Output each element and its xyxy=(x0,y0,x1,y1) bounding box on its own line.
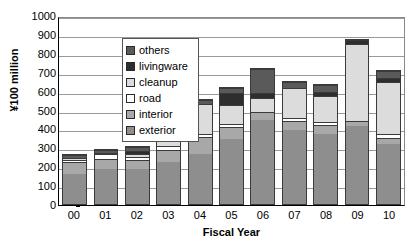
bar-segment-exterior[interactable] xyxy=(63,174,86,204)
x-axis-tick-label: 02 xyxy=(124,208,149,224)
bar-segment-interior[interactable] xyxy=(283,121,306,130)
bar-column xyxy=(376,18,401,205)
bar-segment-exterior[interactable] xyxy=(283,130,306,204)
bar-segment-cleanup[interactable] xyxy=(346,44,369,121)
legend-label: interior xyxy=(139,109,173,120)
y-axis-tick-label: 900 xyxy=(20,30,56,41)
bar-segment-exterior[interactable] xyxy=(95,169,118,204)
stacked-bar[interactable] xyxy=(313,84,338,205)
legend-item-cleanup[interactable]: cleanup xyxy=(126,74,194,90)
stacked-bar[interactable] xyxy=(125,146,150,205)
bar-segment-cleanup[interactable] xyxy=(314,96,337,122)
y-axis-tick-mark xyxy=(76,206,80,207)
bar-segment-exterior[interactable] xyxy=(314,134,337,204)
y-axis-tick-label: 600 xyxy=(20,87,56,98)
legend-label: exterior xyxy=(139,125,176,136)
legend-label: cleanup xyxy=(139,77,178,88)
bar-segment-others[interactable] xyxy=(251,69,274,94)
y-axis-tick-label: 800 xyxy=(20,49,56,60)
legend-item-road[interactable]: road xyxy=(126,90,194,106)
legend-label: road xyxy=(139,93,161,104)
bar-segment-others[interactable] xyxy=(314,85,337,93)
bar-column xyxy=(62,18,87,205)
y-axis-tick-label: 200 xyxy=(20,162,56,173)
x-axis-tick-label: 10 xyxy=(377,208,402,224)
x-axis-tick-labels: 0001020304050607080910 xyxy=(58,208,405,224)
bar-segment-interior[interactable] xyxy=(157,150,180,162)
legend-label: others xyxy=(139,45,170,56)
legend-label: livingware xyxy=(139,61,188,72)
bar-column xyxy=(282,18,307,205)
legend-item-interior[interactable]: interior xyxy=(126,106,194,122)
bar-segment-cleanup[interactable] xyxy=(283,88,306,118)
x-axis-tick-label: 03 xyxy=(156,208,181,224)
bar-segment-interior[interactable] xyxy=(314,125,337,134)
legend: otherslivingwarecleanuproadinteriorexter… xyxy=(122,38,199,142)
bar-segment-cleanup[interactable] xyxy=(377,82,400,134)
bar-column xyxy=(250,18,275,205)
stacked-bar-chart: ¥100 million 100090080070060050040030020… xyxy=(0,0,413,249)
bar-segment-interior[interactable] xyxy=(63,162,86,173)
bar-column xyxy=(345,18,370,205)
bar-segment-livingware[interactable] xyxy=(220,93,243,104)
plot-area: otherslivingwarecleanuproadinteriorexter… xyxy=(58,17,405,206)
stacked-bar[interactable] xyxy=(219,87,244,205)
legend-swatch-road xyxy=(126,94,135,103)
stacked-bar[interactable] xyxy=(282,81,307,205)
bar-segment-cleanup[interactable] xyxy=(220,105,243,124)
legend-item-exterior[interactable]: exterior xyxy=(126,122,194,138)
stacked-bar[interactable] xyxy=(250,68,275,205)
bar-segment-interior[interactable] xyxy=(220,127,243,138)
y-axis-tick-label: 300 xyxy=(20,143,56,154)
stacked-bar[interactable] xyxy=(345,39,370,205)
stacked-bar[interactable] xyxy=(376,70,401,205)
x-axis-tick-label: 09 xyxy=(345,208,370,224)
x-axis-tick-label: 04 xyxy=(187,208,212,224)
legend-item-others[interactable]: others xyxy=(126,42,194,58)
x-axis-tick-label: 01 xyxy=(93,208,118,224)
bar-segment-exterior[interactable] xyxy=(346,126,369,204)
bar-column xyxy=(313,18,338,205)
legend-swatch-interior xyxy=(126,110,135,119)
bar-column xyxy=(94,18,119,205)
x-axis-tick-label: 07 xyxy=(282,208,307,224)
y-axis-tick-label: 100 xyxy=(20,181,56,192)
stacked-bar[interactable] xyxy=(62,154,87,205)
legend-swatch-others xyxy=(126,46,135,55)
bar-segment-interior[interactable] xyxy=(95,159,118,169)
bar-segment-interior[interactable] xyxy=(126,160,149,169)
x-axis-tick-label: 05 xyxy=(219,208,244,224)
x-axis-tick-label: 06 xyxy=(250,208,275,224)
bar-segment-exterior[interactable] xyxy=(189,154,212,204)
bar-segment-interior[interactable] xyxy=(251,112,274,121)
y-axis-tick-label: 1000 xyxy=(20,11,56,22)
x-axis-title: Fiscal Year xyxy=(58,226,405,238)
y-axis-tick-label: 0 xyxy=(20,200,56,211)
bar-segment-exterior[interactable] xyxy=(220,139,243,204)
bar-segment-exterior[interactable] xyxy=(251,120,274,204)
bar-segment-exterior[interactable] xyxy=(157,162,180,204)
bar-segment-exterior[interactable] xyxy=(377,144,400,204)
y-axis-tick-label: 700 xyxy=(20,68,56,79)
bar-series-container xyxy=(59,18,404,205)
legend-item-livingware[interactable]: livingware xyxy=(126,58,194,74)
y-axis-tick-label: 500 xyxy=(20,106,56,117)
bar-column xyxy=(219,18,244,205)
x-axis-tick-label: 00 xyxy=(61,208,86,224)
legend-swatch-livingware xyxy=(126,62,135,71)
legend-swatch-exterior xyxy=(126,126,135,135)
y-axis-tick-label: 400 xyxy=(20,124,56,135)
legend-swatch-cleanup xyxy=(126,78,135,87)
stacked-bar[interactable] xyxy=(94,149,119,205)
bar-segment-exterior[interactable] xyxy=(126,169,149,204)
y-axis-tick-labels: 10009008007006005004003002001000 xyxy=(20,0,56,249)
x-axis-tick-label: 08 xyxy=(314,208,339,224)
bar-segment-cleanup[interactable] xyxy=(251,98,274,112)
